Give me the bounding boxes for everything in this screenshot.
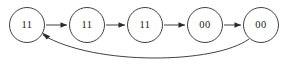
- arrowhead-n4-n5: [235, 22, 242, 28]
- node-n2-label: 11: [82, 19, 93, 30]
- node-n2[interactable]: 11: [70, 8, 105, 43]
- state-diagram-canvas: 11 11 11 00 00: [0, 0, 287, 67]
- arrowhead-n3-n4: [179, 22, 186, 28]
- arrowhead-n2-n3: [119, 22, 126, 28]
- node-n3-label: 11: [140, 19, 151, 30]
- node-n4[interactable]: 00: [188, 8, 223, 43]
- node-n5[interactable]: 00: [244, 8, 279, 43]
- node-n5-label: 00: [255, 19, 266, 30]
- node-n4-label: 00: [199, 19, 210, 30]
- node-n1[interactable]: 11: [10, 8, 45, 43]
- arrowhead-n1-n2: [61, 22, 68, 28]
- node-n3[interactable]: 11: [128, 8, 163, 43]
- node-n1-label: 11: [22, 19, 33, 30]
- state-diagram-container: 11 11 11 00 00: [0, 0, 287, 67]
